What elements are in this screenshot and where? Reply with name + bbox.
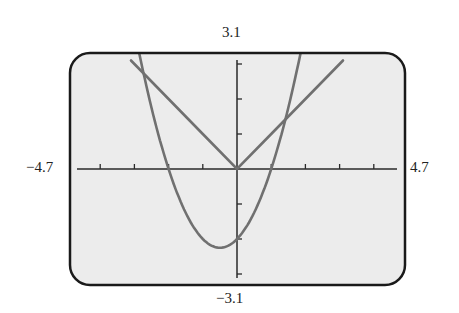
graph-screen <box>0 0 459 313</box>
